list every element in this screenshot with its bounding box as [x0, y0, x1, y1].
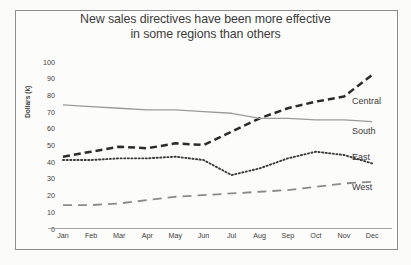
series-line-south — [63, 105, 372, 122]
series-line-east — [63, 152, 372, 175]
series-label-central: Central — [352, 96, 381, 106]
series-line-west — [63, 182, 372, 205]
chart-plot-area — [0, 0, 411, 265]
series-label-east: East — [352, 152, 370, 162]
series-line-central — [63, 75, 372, 157]
series-label-west: West — [352, 182, 372, 192]
series-label-south: South — [352, 126, 376, 136]
